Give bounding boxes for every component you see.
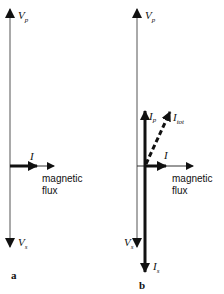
vs-label-b: Vs [124,236,134,251]
itot-label: Itot [172,111,185,126]
panel-a: Vp I magnetic flux Vs a [10,9,83,281]
ip-label: Ip [148,110,157,124]
flux-label-b-line1: magnetic [172,173,213,184]
panel-label-b: b [139,279,145,291]
current-label-a: I [29,150,35,162]
flux-label-a-line2: flux [42,185,58,196]
vp-label-b: Vp [145,9,156,24]
is-label: Is [152,260,160,275]
vs-label-a: Vs [18,236,28,251]
flux-label-a-line1: magnetic [42,173,83,184]
panel-label-a: a [11,269,17,281]
flux-label-b-line2: flux [172,185,188,196]
current-label-b: I [163,149,169,161]
panel-b: Vp Ip Itot I magnetic flux Vs Is b [124,9,213,291]
vp-label-a: Vp [18,9,29,24]
phasor-diagram: Vp I magnetic flux Vs a Vp Ip Itot I mag… [0,0,224,294]
